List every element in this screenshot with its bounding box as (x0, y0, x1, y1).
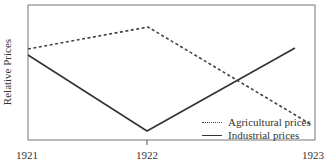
y-axis-label: Relative Prices (1, 39, 13, 105)
legend: Agricultural prices Industrial prices (202, 116, 311, 142)
x-tick-label-1923: 1923 (302, 149, 324, 161)
legend-label: Industrial prices (228, 129, 299, 142)
x-tick-label-1921: 1921 (16, 149, 38, 161)
agricultural-prices-line (28, 27, 312, 125)
solid-line-swatch-icon (202, 135, 222, 136)
legend-label: Agricultural prices (228, 116, 311, 129)
legend-item-agricultural: Agricultural prices (202, 116, 311, 129)
x-tick-label-1922: 1922 (136, 149, 158, 161)
legend-item-industrial: Industrial prices (202, 129, 311, 142)
dashed-line-swatch-icon (202, 122, 222, 123)
